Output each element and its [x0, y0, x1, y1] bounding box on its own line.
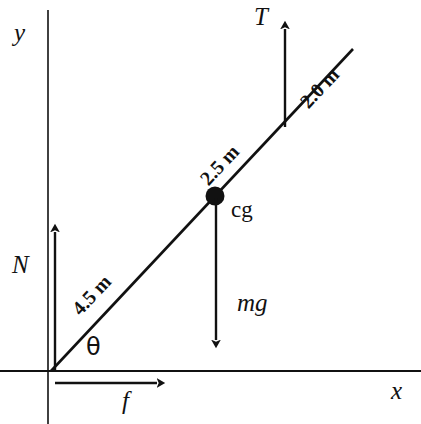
x-axis-label: x [391, 378, 402, 403]
cg-label: cg [231, 198, 253, 221]
normal-force-label: N [12, 252, 29, 277]
y-axis-label: y [14, 20, 25, 45]
tension-force-label: T [254, 4, 268, 29]
weight-force-label: mg [237, 290, 268, 315]
friction-force-label: f [122, 388, 129, 413]
physics-diagram-canvas: y x θ cg N f T mg 4.5 m 2.5 m 2.0 m [0, 0, 421, 424]
diagram-vector-layer [0, 0, 421, 424]
angle-theta-label: θ [86, 335, 101, 359]
